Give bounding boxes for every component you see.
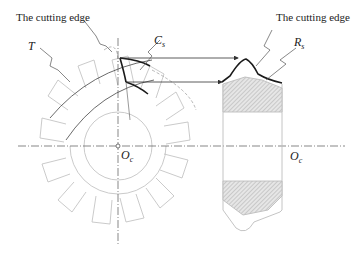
gear-cutter-diagram: The cutting edge The cutting edge T Cs R… xyxy=(0,0,360,257)
label-T: T xyxy=(28,39,36,53)
label-cutting-edge-left: The cutting edge xyxy=(16,11,90,23)
label-Oc-right: Oc xyxy=(290,149,303,165)
label-Rs: Rs xyxy=(293,35,304,51)
section-view xyxy=(223,77,282,231)
gear-teeth xyxy=(40,56,190,224)
label-Cs: Cs xyxy=(154,33,165,49)
leader-T xyxy=(40,48,70,82)
center-point xyxy=(116,144,120,148)
leader-cutting-edge-left xyxy=(82,18,112,52)
label-Oc-left: Oc xyxy=(121,148,134,164)
rake-arcs xyxy=(50,60,154,140)
gear-cutter-outline xyxy=(40,56,190,224)
label-cutting-edge-right: The cutting edge xyxy=(276,11,350,23)
leader-Rs xyxy=(266,48,296,80)
diagram-canvas: The cutting edge The cutting edge T Cs R… xyxy=(0,0,360,257)
leader-cutting-edge-right xyxy=(256,30,272,66)
edge-dash-outline xyxy=(104,47,118,62)
